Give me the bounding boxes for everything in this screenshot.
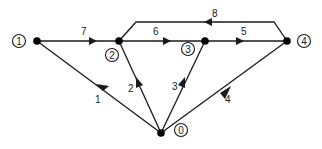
svg-text:4: 4 xyxy=(301,36,307,47)
node-3 xyxy=(201,37,209,45)
edge-label-6: 6 xyxy=(153,26,159,37)
node-4 xyxy=(283,37,291,45)
svg-text:0: 0 xyxy=(178,125,184,136)
node-label-4: 4 xyxy=(298,35,311,48)
edge-4 xyxy=(161,41,287,133)
edge-2 xyxy=(119,41,161,133)
edge-label-1: 1 xyxy=(95,94,101,105)
node-1 xyxy=(33,37,41,45)
node-label-1: 1 xyxy=(13,35,26,48)
arrow-icon-edge-6 xyxy=(163,37,171,45)
arrow-icon-edge-5 xyxy=(236,37,244,45)
node-0 xyxy=(157,129,165,137)
edge-label-3: 3 xyxy=(172,81,178,92)
arrow-icon-edge-1 xyxy=(96,84,109,91)
node-2 xyxy=(115,37,123,45)
svg-text:2: 2 xyxy=(109,50,115,61)
edge-label-7: 7 xyxy=(81,26,87,37)
node-label-0: 0 xyxy=(175,124,188,137)
node-label-2: 2 xyxy=(106,49,119,62)
arrow-icon-edge-8 xyxy=(204,18,212,26)
edge-label-2: 2 xyxy=(128,83,134,94)
svg-text:3: 3 xyxy=(185,44,191,55)
edge-label-4: 4 xyxy=(225,94,231,105)
edge-label-5: 5 xyxy=(241,26,247,37)
arrow-icon-edge-3 xyxy=(178,77,185,88)
edge-label-8: 8 xyxy=(212,8,218,19)
svg-text:1: 1 xyxy=(16,36,22,47)
arrow-icon-edge-2 xyxy=(136,77,143,88)
directed-graph-diagram: 7 6 5 8 1 2 3 4 0 1 2 3 4 xyxy=(0,0,322,149)
node-label-3: 3 xyxy=(182,43,195,56)
arrow-icon-edge-7 xyxy=(89,37,97,45)
